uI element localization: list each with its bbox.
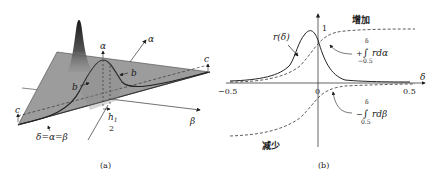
beta-axis-label: β xyxy=(189,116,195,126)
x-axis-label: δ xyxy=(420,72,425,82)
alpha-axis-lower xyxy=(88,105,108,140)
minus-integral-arrow xyxy=(333,92,352,113)
plus-integrand: rdα xyxy=(372,48,388,58)
diagonal-label: δ=α=β xyxy=(36,132,68,142)
b-right-label: b xyxy=(131,68,137,78)
alpha-axis-label: α xyxy=(148,34,154,44)
minus-lower-limit: 0.5 xyxy=(361,118,371,125)
h-denominator: 2 xyxy=(109,124,114,133)
y-tick-1: 1 xyxy=(322,24,327,33)
caption-b: (b) xyxy=(318,161,329,170)
panel-b-chart: δ 1 −0.5 0 0.5 r(δ) 增加 减少 + δ ∫ −0.5 rdα… xyxy=(218,14,425,170)
x-tick-min: −0.5 xyxy=(218,87,237,96)
c-left-label: c xyxy=(15,105,20,115)
x-tick-max: 0.5 xyxy=(403,87,416,96)
peak-spike xyxy=(68,20,92,72)
h-label: h1 xyxy=(108,112,118,123)
minus-upper-limit: δ xyxy=(365,98,369,105)
plus-integral-arrow xyxy=(330,45,352,54)
r-delta-label: r(δ) xyxy=(273,32,290,42)
panel-a-3d-surface: α α β c c b b h1 2 δ=α=β (a) xyxy=(15,20,210,170)
x-tick-zero: 0 xyxy=(315,87,320,96)
c-right-label: c xyxy=(204,54,209,64)
alpha-axis-upper xyxy=(130,40,146,62)
alpha-peak-label: α xyxy=(100,41,106,51)
minus-integrand: rdβ xyxy=(372,109,387,119)
caption-a: (a) xyxy=(100,161,111,170)
diag-label-arrow xyxy=(48,126,50,131)
plus-upper-limit: δ xyxy=(365,37,369,44)
decrease-label: 减少 xyxy=(262,140,280,151)
figure: α α β c c b b h1 2 δ=α=β (a) δ 1 −0.5 0 … xyxy=(0,0,433,179)
plus-lower-limit: −0.5 xyxy=(358,57,373,64)
beta-axis xyxy=(110,99,200,110)
increase-label: 增加 xyxy=(352,14,370,25)
b-left-label: b xyxy=(72,82,78,92)
